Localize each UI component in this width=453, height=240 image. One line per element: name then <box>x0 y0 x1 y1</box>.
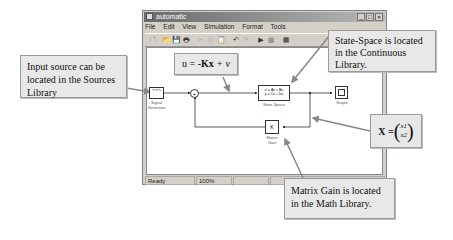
matrix-gain-label-line: Gain <box>260 140 284 145</box>
sum-block[interactable]: + <box>190 89 199 98</box>
right-paren: ) <box>407 121 414 141</box>
callout-state-space: State-Space is located in the Continuous… <box>328 30 436 72</box>
state-space-label: State-Space <box>255 102 293 107</box>
state-x1: x1 <box>400 122 407 131</box>
scope-block[interactable] <box>335 86 348 99</box>
callout-pointer <box>313 118 370 131</box>
callout-pointer <box>292 35 330 82</box>
signal-generator-glyph: ∿∿∿ <box>152 88 161 92</box>
state-x2: x2 <box>400 131 407 140</box>
scope-screen-icon <box>338 89 345 96</box>
matrix-gain-block[interactable]: K <box>265 120 279 134</box>
matrix-gain-label: Matrix Gain <box>260 135 284 145</box>
state-space-block[interactable]: x' = Ax + Bu y = Cx + Du <box>258 85 290 101</box>
output-equation: y = Cx + Du <box>259 92 289 96</box>
signal-generator-label-line: Generator <box>143 105 170 110</box>
sum-glyph: + <box>193 91 196 97</box>
state-vector-x: X = <box>378 126 393 137</box>
scope-label: Scope <box>331 100 353 105</box>
gain-glyph: K <box>270 124 273 130</box>
branch-point <box>309 92 311 94</box>
callout-matrix-gain: Matrix Gain is located in the Math Libra… <box>284 178 395 219</box>
state-vector-entries: x1 x2 <box>400 122 407 140</box>
control-law-u: u = <box>182 58 198 69</box>
callout-pointer <box>223 77 229 91</box>
callout-control-law: u = -Kx + v <box>174 53 238 75</box>
callout-pointer <box>285 139 303 178</box>
control-law-v: + v <box>214 58 230 69</box>
signal-generator-label: Signal Generator <box>143 100 170 110</box>
callout-state-vector: X = ( x1 x2 ) <box>370 114 422 148</box>
callout-input-source: Input source can be located in the Sourc… <box>20 55 127 98</box>
control-law-kx: -Kx <box>198 58 214 69</box>
signal-generator-block[interactable]: ∿∿∿ <box>149 87 164 99</box>
